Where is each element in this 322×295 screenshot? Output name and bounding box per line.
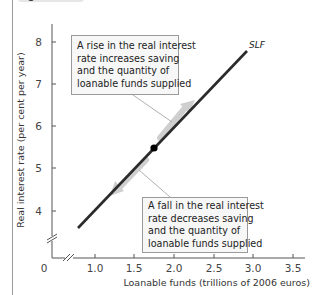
equilibrium-point [150, 144, 157, 151]
rise-callout-line-2: rate increases saving [77, 53, 173, 66]
rise-leader-line [133, 95, 172, 122]
origin-label: 0 [41, 262, 48, 274]
y-tick-5: 5 [35, 162, 42, 174]
rise-callout-line-4: loanable funds supplied [77, 78, 173, 91]
y-axis-title: Real interest rate (per cent per year) [15, 52, 26, 227]
y-tick-6: 6 [35, 120, 42, 132]
x-tick-3-0: 3.0 [245, 262, 262, 274]
y-tick-8: 8 [35, 36, 42, 48]
rise-callout-line-1: A rise in the real interest [77, 40, 173, 53]
fall-callout-line-2: rate decreases saving [148, 213, 242, 226]
fall-callout-line-4: loanable funds supplied [148, 238, 242, 251]
x-axis-title: Loanable funds (trillions of 2006 euros) [123, 277, 310, 288]
fall-callout: A fall in the real interest rate decreas… [142, 197, 248, 253]
x-tick-3-5: 3.5 [285, 262, 302, 274]
fall-leader-line [139, 170, 170, 197]
y-tick-7: 7 [35, 78, 42, 90]
y-tick-4: 4 [35, 205, 42, 217]
fall-callout-line-1: A fall in the real interest [148, 200, 242, 213]
axis-break-icon [46, 234, 74, 261]
slf-label: SLF [249, 40, 266, 50]
rise-callout-line-3: and the quantity of [77, 65, 173, 78]
x-tick-2-5: 2.5 [206, 262, 223, 274]
x-tick-1-5: 1.5 [126, 262, 143, 274]
x-tick-2-0: 2.0 [166, 262, 183, 274]
x-tick-1-0: 1.0 [87, 262, 104, 274]
fall-callout-line-3: and the quantity of [148, 225, 242, 238]
rise-callout: A rise in the real interest rate increas… [71, 35, 179, 95]
